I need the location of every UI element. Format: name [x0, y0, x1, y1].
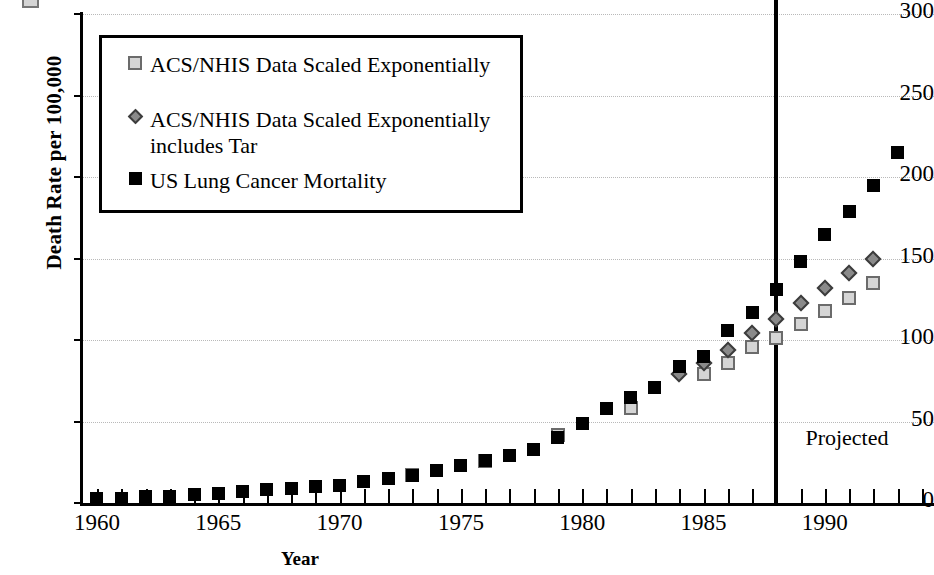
x-tick-mark: [364, 489, 366, 504]
data-point-marker: [768, 310, 785, 327]
legend-item-label: ACS/NHIS Data Scaled Exponentially: [150, 52, 490, 78]
data-point-marker: [479, 454, 492, 467]
data-point-marker: [357, 475, 370, 488]
data-point-marker: [236, 485, 249, 498]
x-tick-mark: [558, 489, 560, 504]
x-tick-mark: [801, 489, 803, 504]
data-point-marker: [139, 490, 152, 503]
x-tick-mark: [606, 489, 608, 504]
gridline: [83, 340, 934, 342]
x-tick-mark: [631, 489, 633, 504]
data-point-marker: [624, 391, 637, 404]
legend-item-acs-nhis-scaled[interactable]: ACS/NHIS Data Scaled Exponentially: [120, 52, 490, 78]
data-point-marker: [697, 350, 710, 363]
data-point-marker: [430, 464, 443, 477]
projection-divider-line: [774, 0, 778, 506]
y-tick-label: 100: [864, 325, 934, 348]
data-point-marker: [843, 205, 856, 218]
data-point-marker: [527, 443, 540, 456]
data-point-marker: [769, 331, 783, 345]
x-tick-mark: [485, 489, 487, 504]
x-tick-label: 1990: [785, 510, 865, 536]
x-tick-mark: [825, 489, 827, 504]
data-point-marker: [891, 146, 904, 159]
legend-item-acs-nhis-tar[interactable]: ACS/NHIS Data Scaled Exponentially inclu…: [120, 107, 490, 159]
data-point-marker: [745, 340, 759, 354]
data-point-marker: [648, 381, 661, 394]
square-light-icon: [120, 52, 150, 70]
clipped-marker-artifact: [22, 0, 39, 8]
x-tick-mark: [388, 489, 390, 504]
x-tick-mark: [898, 489, 900, 504]
data-point-marker: [382, 472, 395, 485]
data-point-marker: [841, 265, 858, 282]
x-tick-label: 1985: [664, 510, 744, 536]
x-axis-title: Year: [0, 548, 600, 570]
data-point-marker: [115, 492, 128, 505]
data-point-marker: [816, 279, 833, 296]
data-point-marker: [866, 276, 880, 290]
y-axis-line: [80, 12, 83, 505]
data-point-marker: [792, 294, 809, 311]
x-tick-label: 1975: [421, 510, 501, 536]
x-tick-mark: [873, 489, 875, 504]
square-black-icon: [120, 168, 150, 185]
x-tick-mark: [412, 489, 414, 504]
data-point-marker: [818, 304, 832, 318]
data-point-marker: [721, 324, 734, 337]
data-point-marker: [90, 492, 103, 505]
x-tick-mark: [461, 489, 463, 504]
x-tick-mark: [534, 489, 536, 504]
legend-item-label: US Lung Cancer Mortality: [150, 168, 386, 194]
legend-box: ACS/NHIS Data Scaled Exponentially ACS/N…: [99, 35, 523, 213]
x-tick-label: 1970: [300, 510, 380, 536]
data-point-marker: [309, 480, 322, 493]
x-tick-mark: [704, 489, 706, 504]
y-tick-label: 250: [864, 81, 934, 104]
data-point-marker: [163, 490, 176, 503]
y-tick-label: 300: [864, 0, 934, 22]
x-tick-mark: [655, 489, 657, 504]
x-tick-label: 1980: [542, 510, 622, 536]
data-point-marker: [842, 291, 856, 305]
data-point-marker: [624, 401, 638, 415]
data-point-marker: [746, 306, 759, 319]
x-tick-mark: [752, 489, 754, 504]
data-point-marker: [503, 449, 516, 462]
data-point-marker: [188, 488, 201, 501]
projected-annotation: Projected: [805, 425, 888, 451]
diamond-grey-icon: [120, 107, 150, 122]
data-point-marker: [260, 483, 273, 496]
gridline: [83, 422, 934, 424]
data-point-marker: [212, 487, 225, 500]
lung-cancer-mortality-chart: Death Rate per 100,000 Year 050100150200…: [0, 0, 934, 575]
x-tick-label: 1960: [57, 510, 137, 536]
x-axis-line: [80, 503, 934, 506]
legend-item-label: ACS/NHIS Data Scaled Exponentially inclu…: [150, 107, 490, 159]
data-point-marker: [794, 255, 807, 268]
gridline: [83, 14, 934, 16]
data-point-marker: [794, 317, 808, 331]
data-point-marker: [818, 228, 831, 241]
x-tick-mark: [679, 489, 681, 504]
data-point-marker: [333, 479, 346, 492]
data-point-marker: [285, 482, 298, 495]
data-point-marker: [867, 179, 880, 192]
data-point-marker: [551, 431, 564, 444]
x-tick-mark: [509, 489, 511, 504]
data-point-marker: [673, 360, 686, 373]
data-point-marker: [600, 402, 613, 415]
x-tick-mark: [728, 489, 730, 504]
x-tick-mark: [849, 489, 851, 504]
y-axis-title: Death Rate per 100,000: [42, 13, 67, 313]
data-point-marker: [770, 283, 783, 296]
data-point-marker: [454, 459, 467, 472]
data-point-marker: [576, 417, 589, 430]
x-tick-mark: [437, 489, 439, 504]
data-point-marker: [406, 469, 419, 482]
x-tick-mark: [582, 489, 584, 504]
x-tick-mark: [922, 489, 924, 504]
x-tick-label: 1965: [178, 510, 258, 536]
legend-item-us-lung-cancer[interactable]: US Lung Cancer Mortality: [120, 168, 386, 194]
